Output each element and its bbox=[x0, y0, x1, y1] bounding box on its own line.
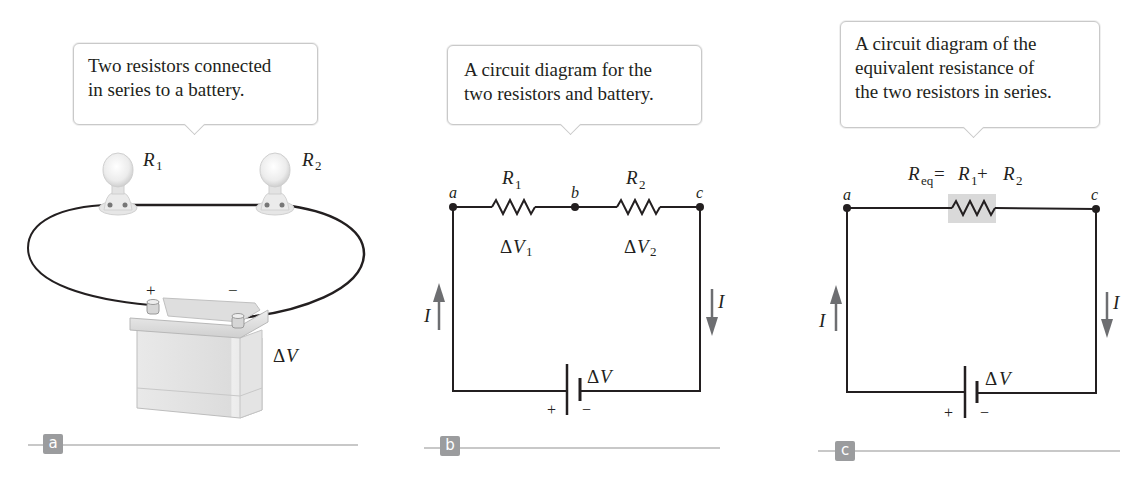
svg-text:R: R bbox=[1002, 163, 1015, 184]
svg-text:2: 2 bbox=[1016, 173, 1023, 188]
node-c-label: c bbox=[1091, 186, 1098, 203]
minus-terminal-label: − bbox=[980, 404, 989, 421]
req-equation-label: R eq = R 1 + R 2 bbox=[907, 163, 1023, 188]
current-arrow-up-icon bbox=[830, 285, 842, 331]
current-right-label: I bbox=[1112, 292, 1121, 313]
svg-text:R: R bbox=[907, 163, 920, 184]
circuit-wires bbox=[847, 201, 1096, 393]
battery-voltage-label: Δ V bbox=[985, 368, 1013, 389]
svg-text:=: = bbox=[934, 163, 945, 184]
battery-symbol bbox=[965, 366, 977, 418]
panel-c: A circuit diagram of the equivalent resi… bbox=[0, 0, 1139, 484]
equivalent-circuit-diagram: a c R eq = R 1 + R 2 I I Δ V + − bbox=[0, 0, 1139, 484]
node-a-label: a bbox=[843, 186, 851, 203]
plus-terminal-label: + bbox=[944, 404, 953, 421]
current-arrow-down-icon bbox=[1101, 292, 1113, 338]
svg-text:+: + bbox=[977, 163, 988, 184]
node-a bbox=[843, 204, 851, 212]
node-c bbox=[1092, 205, 1100, 213]
svg-text:R: R bbox=[957, 163, 970, 184]
current-left-label: I bbox=[818, 310, 827, 331]
panel-c-badge: c bbox=[835, 441, 855, 461]
svg-text:eq: eq bbox=[921, 173, 934, 188]
svg-text:Δ: Δ bbox=[985, 368, 997, 389]
panel-c-rule bbox=[818, 450, 1120, 452]
svg-text:V: V bbox=[999, 368, 1013, 389]
